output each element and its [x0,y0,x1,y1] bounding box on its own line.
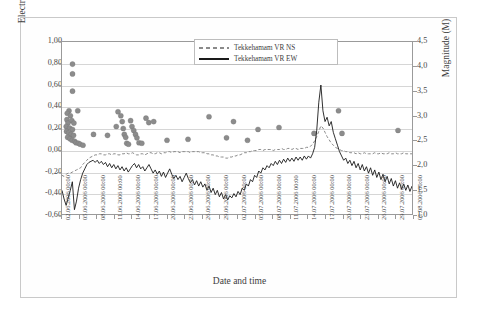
y-axis-left-tick-label: 0,20 [22,124,62,132]
scatter-point [118,113,123,118]
scatter-point [75,108,80,113]
y-axis-right-tick-label: 4,5 [417,37,447,45]
legend-item-ew: Tekkehamam VR EW [199,54,333,64]
y-axis-left-tick-label: 1,00 [22,37,62,45]
y-axis-right-tick-mark [413,140,417,141]
y-axis-left-tick-label: -0,20 [22,168,62,176]
scatter-point [91,132,96,137]
x-axis-tick-label: 02.07.2006 00:00 [240,175,247,220]
x-axis-tick-mark [360,215,361,219]
x-axis-tick-label: 08.06.2006 00:00 [99,175,106,220]
y-axis-right-tick-mark [413,165,417,166]
x-axis-tick-mark [61,215,62,219]
x-axis-tick-mark [343,215,344,219]
x-axis-tick-mark [378,215,379,219]
scatter-point [231,119,236,124]
legend-label-ns: Tekkehamam VR NS [234,44,295,52]
x-axis-tick-label: 08.07.2006 00:00 [275,175,282,220]
x-axis-tick-mark [167,215,168,219]
x-axis-tick-mark [202,215,203,219]
x-axis-tick-mark [395,215,396,219]
scatter-point [206,114,211,119]
x-axis-tick-label: 14.07.2006 00:00 [310,175,317,220]
y-axis-right-tick-label: 4,0 [417,62,447,70]
y-axis-right-tick-label: 2,5 [417,136,447,144]
x-axis-tick-label: 11.06.2006 00:00 [116,175,123,220]
y-axis-right-tick-label: 3,0 [417,112,447,120]
x-axis-tick-label: 05.07.2006 00:00 [257,175,264,220]
y-axis-left-title: Electric potential (mV) [17,0,31,58]
scatter-point [336,108,341,113]
x-axis-tick-mark [79,215,80,219]
x-axis-tick-label: 17.07.2006 00:00 [328,175,335,220]
y-axis-left-tick-label: 0,00 [22,146,62,154]
scatter-points [64,62,401,148]
series-canvas [62,42,412,214]
scatter-point [128,118,133,123]
x-axis-tick-label: 29.07.2006 00:00 [398,175,405,220]
y-axis-right-tick-mark [413,41,417,42]
scatter-point [71,121,76,126]
scatter-point [134,135,139,140]
line-series-ew [62,85,412,210]
y-axis-left-tick-label: 0,80 [22,59,62,67]
scatter-point [80,143,85,148]
x-axis-tick-label: 20.06.2006 00:00 [169,175,176,220]
x-axis-tick-mark [184,215,185,219]
scatter-point [70,89,75,94]
x-axis-tick-label: 17.06.2006 00:00 [152,175,159,220]
y-axis-left-tick-label: -0,40 [22,189,62,197]
scatter-point [120,119,125,124]
scatter-point [339,131,344,136]
x-axis-tick-mark [413,215,414,219]
scatter-point [185,137,190,142]
y-axis-left-tick-label: 0,60 [22,81,62,89]
x-axis-tick-mark [325,215,326,219]
scatter-point [126,142,131,147]
scatter-point [70,71,75,76]
scatter-point [114,124,119,129]
x-axis-tick-label: 23.06.2006 00:00 [187,175,194,220]
x-axis-tick-mark [290,215,291,219]
scatter-point [139,141,144,146]
x-axis-tick-mark [149,215,150,219]
scatter-point [143,116,148,121]
scatter-point [105,133,110,138]
plot-area [61,41,413,215]
x-axis-ticks: 02.06.2006 00:0005.06.2006 00:0008.06.20… [21,216,458,276]
y-axis-right-tick-mark [413,66,417,67]
x-axis-tick-mark [272,215,273,219]
scatter-point [151,119,156,124]
scatter-point [276,125,281,130]
scatter-point [224,135,229,140]
x-axis-tick-label: 11.07.2006 00:00 [292,175,299,220]
y-axis-left-tick-label: 0,40 [22,102,62,110]
x-axis-tick-label: 05.06.2006 00:00 [81,175,88,220]
scatter-point [146,120,151,125]
x-axis-tick-mark [255,215,256,219]
x-axis-title: Date and time [21,276,458,286]
y-axis-right-tick-mark [413,116,417,117]
x-axis-tick-label: 20.07.2006 00:00 [345,175,352,220]
chart-figure: Electric potential (mV) Magnitude (M) Da… [20,17,457,298]
scatter-point [121,126,126,131]
x-axis-tick-mark [96,215,97,219]
x-axis-tick-label: 02.06.2006 00:00 [64,175,71,220]
x-axis-tick-mark [307,215,308,219]
x-axis-tick-label: 14.06.2006 00:00 [134,175,141,220]
legend-label-ew: Tekkehamam VR EW [234,55,297,63]
scatter-point [70,62,75,67]
x-axis-tick-label: 26.06.2006 00:00 [204,175,211,220]
legend-dash-swatch-icon [199,44,229,52]
x-axis-tick-label: 23.07.2006 00:00 [363,175,370,220]
x-axis-tick-label: 01.08.2006 00:00 [416,175,423,220]
x-axis-tick-mark [114,215,115,219]
legend-item-ns: Tekkehamam VR NS [199,43,333,53]
x-axis-tick-mark [219,215,220,219]
scatter-point [123,135,128,140]
x-axis-tick-mark [131,215,132,219]
scatter-point [255,127,260,132]
legend-solid-swatch-icon [199,55,229,63]
scatter-point [395,128,400,133]
y-axis-right-tick-mark [413,91,417,92]
